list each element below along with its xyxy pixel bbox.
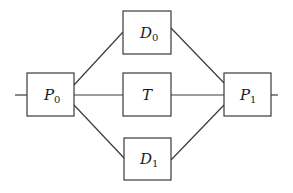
node-p1: P1 [224, 73, 271, 116]
edge-d1-p1 [171, 105, 224, 160]
node-d1: D1 [124, 138, 171, 180]
node-p0: P0 [27, 73, 74, 116]
node-t: T [123, 73, 171, 116]
svg-text:T: T [142, 86, 153, 104]
node-d0: D0 [123, 11, 171, 54]
node-d1-label: D [139, 150, 152, 168]
edge-d0-p1 [171, 28, 224, 83]
node-d0-label: D [139, 24, 152, 42]
diagram-canvas: P0 D0 T D1 P1 [0, 0, 293, 193]
node-p1-subscript: 1 [250, 94, 256, 105]
edge-p0-d0 [74, 32, 123, 85]
node-d0-subscript: 0 [152, 32, 158, 43]
node-t-label: T [142, 86, 153, 104]
node-p0-subscript: 0 [54, 94, 60, 105]
node-d1-subscript: 1 [152, 158, 158, 169]
edge-p0-d1 [74, 105, 124, 158]
